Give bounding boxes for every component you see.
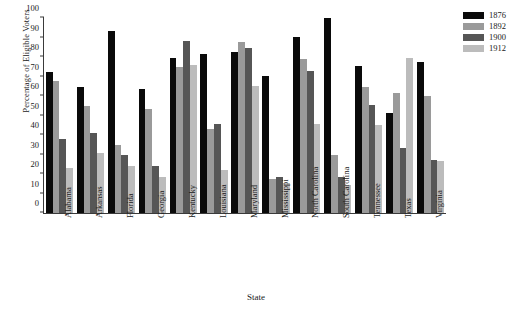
legend-item[interactable]: 1900 [463,33,506,42]
x-tick-label: Florida [125,193,135,218]
legend-swatch [463,23,484,30]
legend-item[interactable]: 1892 [463,22,506,31]
bar[interactable] [331,155,338,213]
y-tick-label: 0 [35,198,44,208]
x-tick-cell: Texas [384,215,415,287]
bar[interactable] [231,52,238,213]
bar-set [46,18,73,213]
bar[interactable] [355,66,362,213]
x-tick-label: South Carolina [341,167,351,218]
bar-set [231,18,258,213]
legend-swatch [463,34,484,41]
legend-swatch [463,12,484,19]
legend-item[interactable]: 1912 [463,44,506,53]
x-tick-cell: Alabama [44,215,75,287]
y-tick-label: 100 [26,3,44,13]
y-tick-label: 40 [31,120,45,130]
x-tick-cell: Kentucky [168,215,199,287]
x-tick-label: North Carolina [310,167,320,218]
bar[interactable] [53,81,60,213]
x-tick-label: Virginia [434,190,444,218]
y-axis-title: Percentage of Eligible Voters [21,0,31,141]
bar[interactable] [170,58,177,213]
bar-group [137,18,168,213]
bar-set [417,18,444,213]
x-tick-cell: Maryland [230,215,261,287]
y-tick-label: 70 [31,62,45,72]
bar-chart: Percentage of Eligible Voters 0102030405… [0,0,512,317]
y-tick-label: 10 [31,179,45,189]
y-tick-label: 30 [31,140,45,150]
x-axis-title: State [0,292,512,302]
x-tick-label: Mississippi [280,179,290,218]
legend-label: 1912 [489,44,506,53]
x-tick-cell: Tennessee [353,215,384,287]
x-axis-tick-labels: AlabamaArkansasFloridaGeorgiaKentuckyLou… [44,215,446,287]
x-tick-label: Texas [403,198,413,218]
bar[interactable] [386,113,393,213]
bar[interactable] [145,109,152,213]
bar-group [106,18,137,213]
bar[interactable] [293,37,300,213]
x-tick-cell: North Carolina [291,215,322,287]
bar-group [384,18,415,213]
x-tick-cell: Louisiana [199,215,230,287]
bar-group [75,18,106,213]
bar[interactable] [362,87,369,213]
bar-group [230,18,261,213]
y-tick-label: 50 [31,101,45,111]
bar-set [170,18,197,213]
legend-item[interactable]: 1876 [463,11,506,20]
x-tick-cell: Florida [106,215,137,287]
x-tick-label: Tennessee [372,183,382,218]
bar-set [139,18,166,213]
x-tick-label: Kentucky [187,185,197,218]
bar[interactable] [238,42,245,213]
bar[interactable] [207,129,214,213]
x-tick-cell: Arkansas [75,215,106,287]
bar-group [168,18,199,213]
legend-label: 1900 [489,33,506,42]
bar[interactable] [139,89,146,213]
bar[interactable] [424,96,431,213]
x-tick-cell: Virginia [415,215,446,287]
bar[interactable] [84,106,91,213]
bar[interactable] [393,93,400,213]
bar[interactable] [300,59,307,213]
bar-group [415,18,446,213]
bar[interactable] [324,18,331,213]
y-tick-label: 90 [31,23,45,33]
x-tick-cell: Mississippi [260,215,291,287]
bar[interactable] [262,76,269,213]
bar[interactable] [406,58,413,213]
bar[interactable] [200,54,207,213]
x-tick-cell: South Carolina [322,215,353,287]
x-tick-label: Maryland [249,185,259,218]
bar-group [44,18,75,213]
bar[interactable] [108,31,115,213]
legend-label: 1892 [489,22,506,31]
bar[interactable] [269,179,276,213]
bar-set [386,18,413,213]
bar-set [77,18,104,213]
bar-set [108,18,135,213]
bar[interactable] [46,72,53,213]
x-tick-label: Arkansas [94,186,104,218]
bar[interactable] [77,87,84,213]
legend: 1876189219001912 [463,11,506,53]
bar[interactable] [417,62,424,213]
x-tick-label: Louisiana [218,184,228,218]
y-tick-label: 80 [31,42,45,52]
bar[interactable] [115,145,122,213]
x-tick-label: Georgia [156,191,166,218]
x-tick-label: Alabama [63,187,73,218]
bar[interactable] [176,67,183,213]
legend-label: 1876 [489,11,506,20]
plot-area: 0102030405060708090100 [44,18,446,213]
x-tick-cell: Georgia [137,215,168,287]
y-tick-label: 20 [31,159,45,169]
bar-groups [44,18,446,213]
legend-swatch [463,45,484,52]
y-tick-label: 60 [31,81,45,91]
